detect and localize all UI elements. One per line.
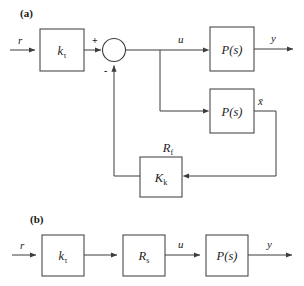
arrowhead-plant-model-input (203, 108, 209, 113)
sum-plus-sign: + (92, 35, 98, 46)
signal-label-r-a: r (18, 34, 23, 46)
panel-a-label: (a) (20, 7, 33, 20)
panel-b-label: (b) (30, 213, 44, 226)
signal-label-xbar-a: x̄ (257, 95, 263, 107)
signal-label-u-b: u (178, 238, 184, 250)
arrowhead-kk-input (183, 173, 189, 178)
signal-label-y-a: y (270, 32, 276, 44)
signal-label-y-b: y (266, 238, 272, 250)
block-label-plant-top-a: P(s) (221, 43, 243, 57)
panel-b: (b) r kτ Rs u P(s) y (12, 213, 292, 276)
signal-label-u-a: u (178, 33, 184, 45)
arrowhead-plant-top-input (203, 47, 209, 52)
sum-minus-sign: - (104, 65, 107, 76)
block-label-plant-b: P(s) (216, 249, 238, 263)
diagram-canvas: (a) r kτ + - u P(s) y P(s) (0, 0, 304, 286)
signal-label-r-b: r (20, 239, 25, 251)
summing-junction-a (103, 39, 126, 62)
annotation-label-rf: Rf (162, 141, 174, 157)
block-diagram-figure: (a) r kτ + - u P(s) y P(s) (0, 0, 304, 286)
wire-u-branch-to-model (160, 50, 203, 111)
block-label-plant-model-a: P(s) (221, 105, 243, 119)
panel-a: (a) r kτ + - u P(s) y P(s) (10, 7, 293, 197)
